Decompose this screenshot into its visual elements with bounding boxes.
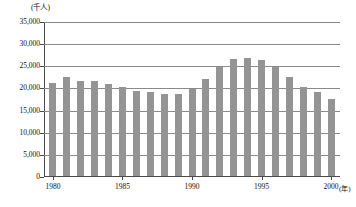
x-axis-tick (262, 177, 263, 180)
bar-slot (199, 22, 213, 176)
bar (314, 92, 321, 176)
x-axis-tick-label: 1980 (45, 183, 60, 191)
y-axis-unit-label: (千人) (31, 4, 50, 12)
bar-slot (310, 22, 324, 176)
bar-slot (171, 22, 185, 176)
x-axis-tick-label: 1995 (254, 183, 269, 191)
bar-slot (213, 22, 227, 176)
bar (91, 81, 98, 176)
bar (63, 77, 70, 176)
bar-slot (255, 22, 269, 176)
bar (216, 67, 223, 176)
bar (300, 87, 307, 176)
bar-slot (143, 22, 157, 176)
bar-slot (129, 22, 143, 176)
plot-area (44, 22, 340, 177)
x-axis-tick (192, 177, 193, 180)
bar (161, 94, 168, 176)
bar (189, 89, 196, 176)
bar-slot (185, 22, 199, 176)
bar-slot (116, 22, 130, 176)
x-axis-tick-label: 1985 (115, 183, 130, 191)
bar (147, 92, 154, 176)
y-axis-tick-label: 0 (0, 173, 40, 181)
bar (202, 79, 209, 176)
bar (258, 60, 265, 176)
y-axis-labels: 05,00010,00015,00020,00025,00030,00035,0… (0, 22, 40, 177)
bar-series (44, 22, 340, 176)
y-axis-tick-label: 30,000 (0, 40, 40, 48)
bar-slot (241, 22, 255, 176)
y-axis-tick-label: 20,000 (0, 85, 40, 93)
bar (272, 67, 279, 176)
bar-slot (46, 22, 60, 176)
y-axis-tick-label: 10,000 (0, 129, 40, 137)
y-axis-tick-label: 15,000 (0, 107, 40, 115)
bar-slot (157, 22, 171, 176)
x-axis-tick (53, 177, 54, 180)
bar (244, 58, 251, 176)
bar (105, 84, 112, 176)
x-axis-tick-label: 2000 (324, 183, 339, 191)
x-axis-unit-label: (年) (339, 186, 351, 193)
bar-slot (88, 22, 102, 176)
bar-slot (282, 22, 296, 176)
y-axis-tick-label: 25,000 (0, 63, 40, 71)
x-axis-tick-label: 1990 (185, 183, 200, 191)
bar-slot (227, 22, 241, 176)
bar-slot (74, 22, 88, 176)
bar (286, 77, 293, 176)
x-axis-labels: 19801985199019952000 (44, 180, 340, 194)
bar (175, 94, 182, 176)
y-axis-tick-label: 35,000 (0, 18, 40, 26)
bar-slot (60, 22, 74, 176)
y-axis-tick (40, 177, 44, 178)
bar-slot (269, 22, 283, 176)
bar (49, 83, 56, 176)
bar (133, 91, 140, 176)
bar (119, 87, 126, 176)
bar (77, 81, 84, 176)
bar-slot (324, 22, 338, 176)
bar (328, 99, 335, 176)
x-axis-tick (122, 177, 123, 180)
x-axis-tick (331, 177, 332, 180)
bar-slot (102, 22, 116, 176)
y-axis-tick-label: 5,000 (0, 151, 40, 159)
bar-chart: (千人) 05,00010,00015,00020,00025,00030,00… (0, 0, 356, 207)
bar-slot (296, 22, 310, 176)
bar (230, 59, 237, 176)
